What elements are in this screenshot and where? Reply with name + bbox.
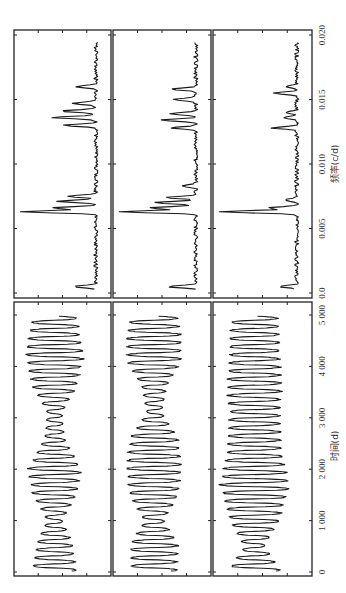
freq-tick-label: 0.005 [317,218,327,239]
time-tick-label: 1 000 [317,510,327,531]
time-tick-label: 5 000 [317,304,327,325]
figure-canvas: 0.00.0050.0100.0150.020频率(c/d)01 0002 00… [0,0,346,593]
timeseries-line [219,316,289,571]
panel-time-3 [213,302,312,576]
panel-group [14,30,312,576]
panel-freq-2 [113,30,211,298]
time-tick-label: 2 000 [317,459,327,480]
panel-frame [213,302,312,576]
timeseries-line [26,316,84,571]
spectrum-line [219,43,298,290]
spectrum-line [20,43,97,290]
panel-freq-3 [213,30,312,298]
time-axis-title: 时间(d) [329,431,340,462]
time-tick-label: 0 [317,569,327,574]
panel-frame [113,302,211,576]
freq-tick-label: 0.0 [317,287,327,299]
panel-time-2 [113,302,211,576]
panel-freq-1 [14,30,111,298]
time-tick-label: 3 000 [317,407,327,428]
spectrum-line [119,43,197,290]
freq-tick-label: 0.015 [317,89,327,110]
freq-axis-title: 频率(c/d) [329,145,340,184]
axis-labels: 0.00.0050.0100.0150.020频率(c/d)01 0002 00… [317,24,340,574]
panel-time-1 [14,302,111,576]
timeseries-line [126,316,181,571]
time-tick-label: 4 000 [317,356,327,377]
freq-tick-label: 0.020 [317,24,327,45]
freq-tick-label: 0.010 [317,153,327,174]
